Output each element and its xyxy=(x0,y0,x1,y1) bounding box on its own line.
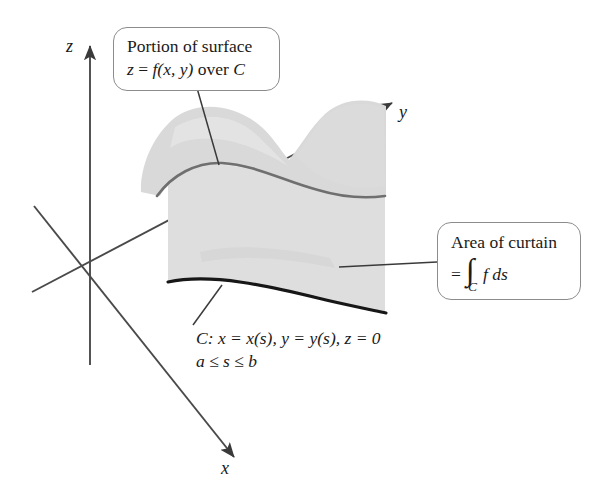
leader-line-curve-c-label xyxy=(193,285,222,325)
area-equals: = xyxy=(451,263,461,286)
y-axis-label: y xyxy=(399,102,407,123)
callout-portion-of-surface: Portion of surface z = f(x, y) over C xyxy=(113,27,280,91)
integrand-f: f xyxy=(483,263,488,286)
surface-arguments: (x, y) xyxy=(157,59,193,79)
integral-symbol-group: ∫ C xyxy=(466,259,481,289)
surface-equals: = xyxy=(138,59,148,79)
surface-curve-c-symbol: C xyxy=(233,59,245,79)
curve-c-parametrization-line1: C: x = x(s), y = y(s), z = 0 xyxy=(196,327,381,350)
callout-area-line1: Area of curtain xyxy=(451,231,568,254)
callout-surface-line2: z = f(x, y) over C xyxy=(127,58,267,81)
surface-z-symbol: z xyxy=(127,59,134,79)
callout-area-of-curtain: Area of curtain = ∫ C f ds xyxy=(437,222,581,300)
z-axis-label: z xyxy=(66,36,73,57)
callout-area-formula: = ∫ C f ds xyxy=(451,259,568,289)
integral-subscript-c: C xyxy=(468,278,477,296)
callout-surface-line1: Portion of surface xyxy=(127,35,267,58)
curve-c-parametrization-label: C: x = x(s), y = y(s), z = 0 a ≤ s ≤ b xyxy=(196,327,381,373)
x-axis-label: x xyxy=(221,458,229,479)
curve-c-parametrization-line2: a ≤ s ≤ b xyxy=(196,350,381,373)
differential-ds: ds xyxy=(492,263,508,286)
surface-over-word: over xyxy=(198,59,229,79)
